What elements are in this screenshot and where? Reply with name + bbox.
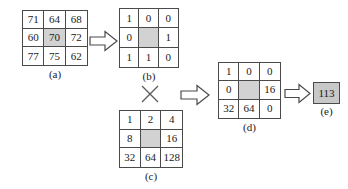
matrix-a-cell-0-1: 64 bbox=[44, 11, 65, 29]
matrix-c-cell-0-1: 2 bbox=[141, 111, 162, 130]
multiply-icon bbox=[140, 84, 160, 104]
block-arrow-right-icon-weight bbox=[180, 84, 210, 106]
block-arrow-right-icon-sum bbox=[284, 83, 311, 104]
matrix-d-cell-1-2: 16 bbox=[260, 81, 280, 99]
matrix-d-cell-0-2: 0 bbox=[260, 63, 280, 81]
block-arrow-right-icon-threshold bbox=[89, 30, 118, 52]
matrix-a-cell-1-0: 60 bbox=[23, 29, 44, 47]
matrix-c-cell-2-2: 128 bbox=[161, 148, 182, 167]
matrix-a-cell-1-2: 72 bbox=[66, 29, 87, 47]
matrix-d-cell-1-1-center bbox=[239, 81, 259, 99]
matrix-b-cell-1-0: 0 bbox=[120, 28, 139, 47]
matrix-b-cell-2-0: 1 bbox=[120, 48, 139, 67]
matrix-c-cell-1-0: 8 bbox=[120, 130, 141, 149]
result-value-box: 113 bbox=[313, 82, 340, 104]
matrix-a-cell-2-2: 62 bbox=[66, 47, 87, 65]
matrix-b-caption: (b) bbox=[119, 70, 179, 82]
matrix-d-cell-0-1: 0 bbox=[239, 63, 259, 81]
matrix-c-cell-0-0: 1 bbox=[120, 111, 141, 130]
matrix-a-cell-2-0: 77 bbox=[23, 47, 44, 65]
matrix-a: 71 64 68 60 70 72 77 75 62 bbox=[22, 10, 88, 66]
matrix-a-caption: (a) bbox=[22, 68, 88, 80]
matrix-c-cell-2-0: 32 bbox=[120, 148, 141, 167]
matrix-c-cell-1-1-center bbox=[141, 130, 162, 149]
matrix-a-cell-0-0: 71 bbox=[23, 11, 44, 29]
matrix-a-cell-2-1: 75 bbox=[44, 47, 65, 65]
matrix-c-caption: (c) bbox=[119, 170, 183, 182]
matrix-b-cell-0-0: 1 bbox=[120, 9, 139, 28]
matrix-d: 1 0 0 0 16 32 64 0 bbox=[218, 62, 281, 119]
matrix-c: 1 2 4 8 16 32 64 128 bbox=[119, 110, 183, 168]
lbp-figure: 71 64 68 60 70 72 77 75 62 (a) 1 0 0 0 1… bbox=[0, 0, 348, 189]
matrix-b-cell-0-2: 0 bbox=[159, 9, 178, 28]
matrix-d-cell-2-1: 64 bbox=[239, 100, 259, 118]
matrix-d-caption: (d) bbox=[218, 121, 281, 133]
matrix-b-cell-2-1: 1 bbox=[139, 48, 158, 67]
matrix-a-cell-0-2: 68 bbox=[66, 11, 87, 29]
matrix-b: 1 0 0 0 1 1 1 0 bbox=[119, 8, 179, 68]
matrix-b-cell-1-2: 1 bbox=[159, 28, 178, 47]
matrix-d-cell-2-2: 0 bbox=[260, 100, 280, 118]
matrix-d-cell-1-0: 0 bbox=[219, 81, 239, 99]
matrix-d-cell-0-0: 1 bbox=[219, 63, 239, 81]
matrix-c-cell-1-2: 16 bbox=[161, 130, 182, 149]
matrix-b-cell-2-2: 0 bbox=[159, 48, 178, 67]
matrix-c-cell-0-2: 4 bbox=[161, 111, 182, 130]
matrix-d-cell-2-0: 32 bbox=[219, 100, 239, 118]
matrix-b-cell-0-1: 0 bbox=[139, 9, 158, 28]
matrix-b-cell-1-1-center bbox=[139, 28, 158, 47]
result-caption: (e) bbox=[313, 105, 340, 117]
matrix-c-cell-2-1: 64 bbox=[141, 148, 162, 167]
matrix-a-cell-1-1-center: 70 bbox=[44, 29, 65, 47]
